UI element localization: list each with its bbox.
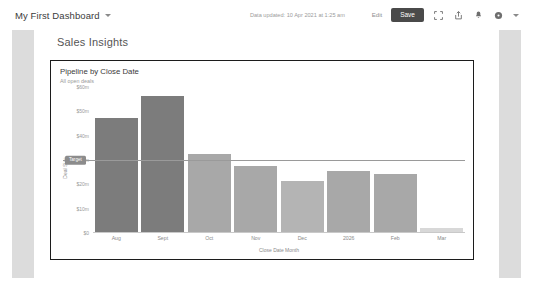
chart-plot: Deal Size $0$10m$20m$30m$40m$50m$60m Tar… xyxy=(51,87,475,261)
chart-card: Pipeline by Close Date All open deals De… xyxy=(50,60,474,260)
y-axis-tick-label: $20m xyxy=(76,181,89,187)
page-title: Sales Insights xyxy=(57,36,128,48)
chevron-down-icon[interactable] xyxy=(513,14,519,17)
bell-icon[interactable] xyxy=(473,10,484,21)
y-axis-tick-label: $50m xyxy=(76,108,89,114)
x-axis-tick-label: Mar xyxy=(420,235,463,241)
target-reference-line xyxy=(63,160,465,161)
left-side-band xyxy=(12,30,34,278)
bar-feb[interactable] xyxy=(374,174,417,232)
x-axis-tick-label: Feb xyxy=(374,235,417,241)
x-axis-tick-label: Oct xyxy=(188,235,231,241)
fullscreen-icon[interactable] xyxy=(433,10,444,21)
toolbar-actions: Data updated: 10 Apr 2021 at 1:25 am Edi… xyxy=(250,8,519,22)
x-axis-ticks: AugSeptOctNovDec2026FebMar xyxy=(93,235,465,241)
help-icon[interactable] xyxy=(493,10,504,21)
x-axis-tick-label: Dec xyxy=(281,235,324,241)
data-updated-text: Data updated: 10 Apr 2021 at 1:25 am xyxy=(250,12,345,18)
chevron-down-icon xyxy=(105,14,111,17)
bar-2026[interactable] xyxy=(327,171,370,232)
edit-button[interactable]: Edit xyxy=(372,12,382,18)
y-axis-tick-label: $10m xyxy=(76,206,89,212)
top-toolbar: My First Dashboard Data updated: 10 Apr … xyxy=(0,0,533,30)
x-axis-tick-label: Aug xyxy=(95,235,138,241)
save-button[interactable]: Save xyxy=(391,8,424,22)
bar-mar[interactable] xyxy=(420,228,463,232)
y-axis-tick-label: $0 xyxy=(83,230,89,236)
x-axis-tick-label: 2026 xyxy=(327,235,370,241)
right-side-band xyxy=(499,30,521,278)
bar-nov[interactable] xyxy=(234,166,277,232)
x-axis-tick-label: Nov xyxy=(234,235,277,241)
dashboard-name: My First Dashboard xyxy=(15,10,100,21)
chart-title: Pipeline by Close Date xyxy=(60,67,139,76)
bar-aug[interactable] xyxy=(95,118,138,232)
plot-area: Target xyxy=(93,87,465,233)
y-axis-tick-label: $40m xyxy=(76,133,89,139)
target-label: Target xyxy=(65,156,86,165)
share-icon[interactable] xyxy=(453,10,464,21)
x-axis-title: Close Date Month xyxy=(93,247,465,253)
x-axis-tick-label: Sept xyxy=(141,235,184,241)
bar-dec[interactable] xyxy=(281,181,324,232)
dashboard-selector[interactable]: My First Dashboard xyxy=(15,10,111,21)
bar-sept[interactable] xyxy=(141,96,184,232)
y-axis-tick-label: $60m xyxy=(76,84,89,90)
bar-oct[interactable] xyxy=(188,154,231,232)
